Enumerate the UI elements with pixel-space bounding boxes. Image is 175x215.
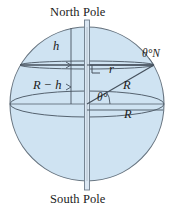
height-h-label: h [53, 40, 59, 53]
diagram-canvas [0, 0, 175, 215]
sphere-latitude-diagram: North Pole South Pole h R − h r R R θ°N … [0, 0, 175, 215]
north-pole-label: North Pole [50, 6, 106, 19]
r-minus-h-label: R − h [33, 79, 62, 92]
sphere-radius-diagonal-label: R [123, 79, 131, 92]
center-angle-label: θ° [97, 92, 107, 104]
latitude-radius-label: r [109, 63, 114, 76]
sphere-radius-equator-label: R [124, 108, 132, 121]
latitude-angle-label: θ°N [142, 48, 160, 60]
south-pole-label: South Pole [50, 193, 106, 206]
